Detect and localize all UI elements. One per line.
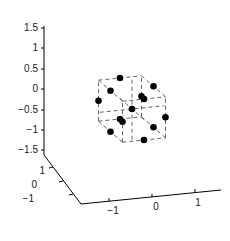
scatter3d-plot: 1.5 1 0.5 0 −0.5 −1 −1.5 1 0 −1 −1 0 1 xyxy=(0,0,230,241)
y-tick-label: 0 xyxy=(31,179,37,190)
data-point xyxy=(95,97,102,104)
y-tick-label: 1 xyxy=(39,165,45,176)
z-tick-label: −1.5 xyxy=(18,144,38,155)
z-tick-label: 1.5 xyxy=(24,22,38,33)
z-tick-label: 0.5 xyxy=(24,63,38,74)
data-point xyxy=(138,93,145,100)
data-point xyxy=(107,128,114,135)
y-tick-label: −1 xyxy=(23,193,35,204)
z-tick-label: −0.5 xyxy=(18,104,38,115)
axes xyxy=(41,26,221,204)
z-tick-label: −1 xyxy=(27,124,39,135)
data-point xyxy=(119,118,126,125)
z-tick-label: 0 xyxy=(32,83,38,94)
data-point xyxy=(129,106,136,113)
x-tick-label: 1 xyxy=(195,197,201,208)
data-point xyxy=(150,83,157,90)
data-points xyxy=(95,75,169,144)
z-tick-label: 1 xyxy=(32,42,38,53)
data-point xyxy=(107,87,114,94)
z-tick-labels: 1.5 1 0.5 0 −0.5 −1 −1.5 xyxy=(18,22,38,155)
data-point xyxy=(117,75,124,82)
data-point xyxy=(141,137,148,144)
data-point xyxy=(162,114,169,121)
x-tick-label: −1 xyxy=(107,205,119,216)
y-tick-labels: 1 0 −1 xyxy=(23,165,46,204)
x-tick-label: 0 xyxy=(153,201,159,212)
data-point xyxy=(150,124,157,131)
y-axis xyxy=(44,155,81,204)
